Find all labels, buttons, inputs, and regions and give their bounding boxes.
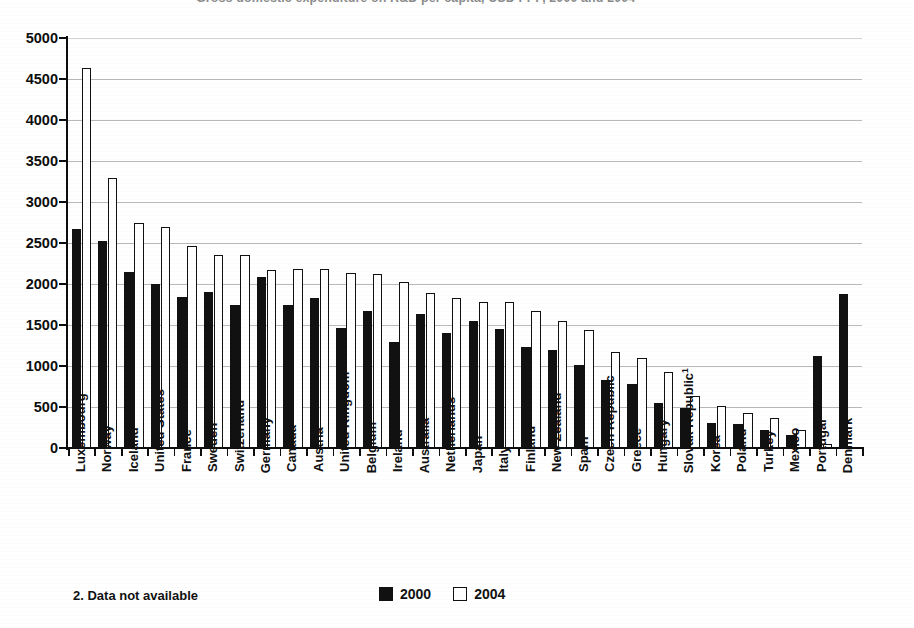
x-axis-label-united-kingdom: United Kingdom xyxy=(338,372,351,472)
x-axis-label-netherlands: Netherlands xyxy=(444,397,457,472)
bar-2004-iceland xyxy=(134,223,143,448)
x-axis-tick xyxy=(174,449,176,456)
y-axis-tick-label: 4500 xyxy=(2,72,58,87)
x-axis-tick xyxy=(518,449,520,456)
x-axis-tick xyxy=(491,449,493,456)
x-axis-label-korea: Korea xyxy=(709,435,722,472)
x-axis-tick xyxy=(121,449,123,456)
x-axis-label-finland: Finland xyxy=(524,426,537,472)
x-axis-label-czech-republic: Czech Republic xyxy=(603,375,616,472)
gridline xyxy=(68,38,862,39)
gridline xyxy=(68,79,862,80)
gridline xyxy=(68,202,862,203)
x-axis-label-australia: Australia1 xyxy=(416,413,430,473)
x-axis-label-belgium: Belgium1 xyxy=(364,417,378,473)
bar-2004-france xyxy=(187,246,196,448)
bar-2000-norway xyxy=(98,241,107,448)
x-axis-tick xyxy=(200,449,202,456)
x-axis-tick xyxy=(386,449,388,456)
x-axis-label-switzerland: Switzerland xyxy=(233,400,246,472)
x-axis-label-slovak-republic: Slovak Republic1 xyxy=(681,368,695,473)
y-axis-tick xyxy=(59,283,67,285)
bar-2000-spain xyxy=(574,365,583,448)
x-axis-label-new-zealand: New Zealand xyxy=(550,393,563,472)
y-axis-labels: 5000450040003500300025002000150010005000 xyxy=(0,0,58,628)
y-axis-tick-label: 1500 xyxy=(2,318,58,333)
y-axis-tick xyxy=(59,365,67,367)
y-axis-tick-label: 3000 xyxy=(2,195,58,210)
x-axis-tick xyxy=(306,449,308,456)
x-axis-tick xyxy=(465,449,467,456)
x-axis-label-luxembourg: Luxembourg xyxy=(74,393,87,472)
x-axis-label-hungary: Hungary xyxy=(656,419,669,472)
x-axis-label-poland: Poland xyxy=(735,429,748,472)
y-axis-tick xyxy=(59,324,67,326)
y-axis-tick xyxy=(59,406,67,408)
x-axis-tick xyxy=(703,449,705,456)
bar-2004-luxembourg xyxy=(82,68,91,448)
x-axis-label-iceland: Iceland xyxy=(127,427,140,472)
bar-2004-italy xyxy=(505,302,514,448)
bar-2004-sweden xyxy=(214,255,223,448)
bar-2000-france xyxy=(177,297,186,448)
bar-2000-iceland xyxy=(124,272,133,448)
x-axis-label-denmark: Denmark2 xyxy=(840,413,854,473)
legend-swatch-2004-icon xyxy=(453,587,467,601)
bar-2004-canada xyxy=(293,269,302,448)
y-axis-tick xyxy=(59,447,67,449)
y-axis-tick xyxy=(59,242,67,244)
y-axis-tick-label: 1000 xyxy=(2,359,58,374)
x-axis-tick xyxy=(280,449,282,456)
footnote: 2. Data not available xyxy=(73,588,198,603)
x-axis-tick xyxy=(783,449,785,456)
x-axis-label-greece: Greece xyxy=(630,428,643,472)
x-axis-label-canada: Canada xyxy=(285,425,298,472)
y-axis-tick-label: 4000 xyxy=(2,113,58,128)
legend-label-2000: 2000 xyxy=(400,586,431,602)
bar-2004-japan xyxy=(479,302,488,448)
bar-2004-norway xyxy=(108,178,117,448)
y-axis-tick xyxy=(59,78,67,80)
x-axis-label-united-states: United States xyxy=(153,389,166,472)
x-axis-tick xyxy=(862,449,864,456)
x-axis-tick xyxy=(68,449,70,456)
x-axis-tick xyxy=(809,449,811,456)
x-axis-tick xyxy=(836,449,838,456)
y-axis-tick-label: 500 xyxy=(2,400,58,415)
plot-area xyxy=(68,38,862,448)
y-axis-tick xyxy=(59,160,67,162)
x-axis-label-ireland: Ireland xyxy=(391,429,404,472)
bar-2004-spain xyxy=(584,330,593,448)
gridline xyxy=(68,120,862,121)
gridline xyxy=(68,243,862,244)
bar-2000-japan xyxy=(469,321,478,448)
legend-swatch-2000-icon xyxy=(379,587,393,601)
x-axis-tick xyxy=(94,449,96,456)
bar-2000-austria xyxy=(310,298,319,448)
legend-entry-2000: 2000 xyxy=(379,586,431,602)
x-axis-label-mexico: Mexico xyxy=(788,428,801,472)
bar-2004-ireland xyxy=(399,282,408,448)
bar-chart: 5000450040003500300025002000150010005000… xyxy=(0,0,914,628)
x-axis-label-spain: Spain xyxy=(577,437,590,472)
y-axis-tick-label: 2500 xyxy=(2,236,58,251)
x-axis-tick xyxy=(544,449,546,456)
y-axis-tick xyxy=(59,201,67,203)
x-axis-label-norway: Norway xyxy=(100,425,113,472)
x-axis-label-germany: Germany1 xyxy=(258,412,272,473)
x-axis-tick xyxy=(147,449,149,456)
x-axis-tick xyxy=(730,449,732,456)
y-axis-tick-label: 3500 xyxy=(2,154,58,169)
x-axis-tick xyxy=(597,449,599,456)
x-axis-tick xyxy=(624,449,626,456)
x-axis-tick xyxy=(439,449,441,456)
x-axis-label-italy: Italy xyxy=(497,446,510,472)
y-axis-tick-label: 5000 xyxy=(2,31,58,46)
x-axis-tick xyxy=(359,449,361,456)
bar-2004-austria xyxy=(320,269,329,448)
x-axis-label-turkey: Turkey xyxy=(762,430,775,472)
bar-2000-italy xyxy=(495,329,504,448)
x-axis-label-austria: Austria xyxy=(312,427,325,472)
x-axis-label-sweden: Sweden xyxy=(206,423,219,472)
gridline xyxy=(68,161,862,162)
